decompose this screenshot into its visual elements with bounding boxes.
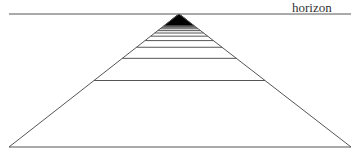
horizon-label: horizon <box>292 0 332 15</box>
vanishing-point-tip <box>165 14 194 25</box>
perspective-diagram: horizon <box>0 0 357 157</box>
road-rungs <box>94 14 265 81</box>
perspective-figure: horizon <box>0 0 357 157</box>
